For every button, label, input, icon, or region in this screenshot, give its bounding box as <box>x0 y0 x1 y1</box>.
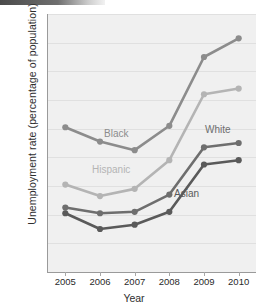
y-axis-ticks: 0%2%4%6%8%10%12%14%16%18% <box>0 0 268 308</box>
x-axis-title: Year <box>0 292 268 304</box>
x-tick-mark <box>65 272 66 276</box>
series-label-hispanic: Hispanic <box>92 164 130 175</box>
x-tick-mark <box>100 272 101 276</box>
x-tick-mark <box>169 272 170 276</box>
series-label-white: White <box>205 124 231 135</box>
x-tick-label: 2010 <box>216 276 262 287</box>
unemployment-line-chart: Unemployment rate (percentage of populat… <box>0 0 268 308</box>
series-label-black: Black <box>104 128 128 139</box>
x-tick-mark <box>239 272 240 276</box>
x-tick-mark <box>135 272 136 276</box>
series-label-asian: Asian <box>174 188 199 199</box>
x-tick-mark <box>204 272 205 276</box>
